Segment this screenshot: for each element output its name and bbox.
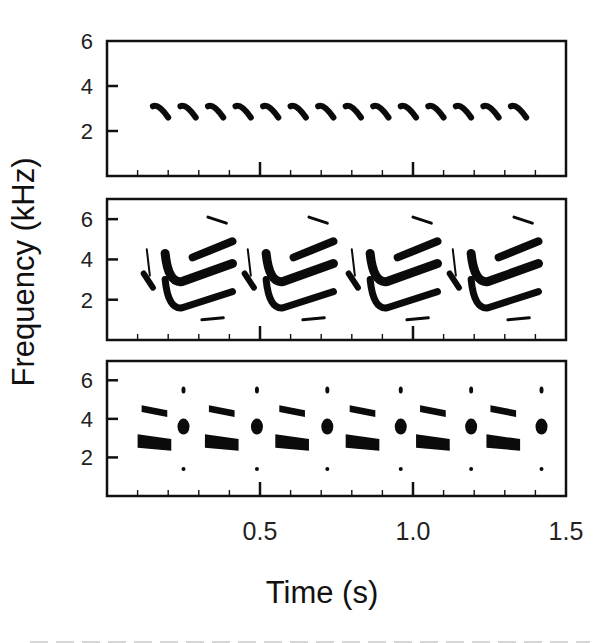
panel-top-syllable-train: 246	[81, 29, 566, 176]
syllable-mark	[456, 106, 471, 118]
syllable-mark	[373, 106, 388, 118]
phrase-intro-note	[245, 274, 254, 288]
syllable-mark	[263, 106, 278, 118]
syllable-mark	[208, 106, 223, 118]
click-blob	[251, 419, 263, 435]
y-tick-label: 2	[81, 445, 93, 470]
phrase-intro-sweep	[147, 249, 150, 275]
click-blob	[321, 419, 333, 435]
phrase-bottom-fragment	[508, 318, 529, 320]
x-tick-label: 1.5	[549, 517, 584, 545]
phrase-intro-sweep	[352, 249, 355, 275]
low-dot	[540, 467, 544, 471]
syllable-mark	[346, 106, 361, 118]
x-tick-label: 0.5	[243, 517, 278, 545]
click-blob	[465, 419, 477, 435]
lower-band	[416, 434, 450, 450]
upper-band	[279, 405, 305, 417]
panel-middle-harmonic-phrases: 246	[81, 199, 566, 340]
upper-band	[142, 405, 168, 417]
panel-frame	[107, 361, 566, 496]
syllable-mark	[401, 106, 416, 118]
high-dot	[255, 386, 259, 393]
syllable-mark	[511, 106, 526, 118]
lower-band	[275, 434, 309, 450]
phrase-intro-note	[349, 274, 358, 288]
phrase-top-fragment	[309, 217, 327, 223]
phrase-intro-note	[144, 274, 153, 288]
lower-band	[486, 434, 520, 450]
phrase-upper-harmonic	[294, 241, 334, 257]
phrase-upper-harmonic	[499, 241, 539, 257]
x-axis-title: Time (s)	[266, 575, 379, 610]
y-tick-label: 6	[81, 368, 93, 393]
panel-frame	[107, 41, 566, 176]
cropped-caption-text	[0, 636, 613, 643]
phrase-upper-harmonic	[398, 241, 438, 257]
phrase-bottom-fragment	[303, 318, 324, 320]
phrase-intro-note	[450, 274, 459, 288]
high-dot	[399, 386, 403, 393]
syllable-mark	[428, 106, 443, 118]
upper-band	[420, 405, 446, 417]
phrase-bottom-fragment	[407, 318, 428, 320]
y-tick-label: 6	[81, 29, 93, 54]
low-dot	[399, 467, 403, 471]
y-tick-label: 4	[81, 247, 93, 272]
click-blob	[178, 419, 190, 435]
low-dot	[325, 467, 329, 471]
panel-bottom-band-units: 246	[81, 361, 566, 496]
syllable-mark	[291, 106, 306, 118]
phrase-intro-sweep	[248, 249, 251, 275]
y-tick-label: 4	[81, 74, 93, 99]
lower-band	[205, 434, 239, 450]
syllable-mark	[153, 106, 168, 118]
x-tick-labels: 0.5 1.0 1.5	[243, 517, 584, 545]
low-dot	[255, 467, 259, 471]
syllable-mark	[180, 106, 195, 118]
phrase-bottom-fragment	[202, 318, 223, 320]
phrase-top-fragment	[208, 217, 226, 223]
high-dot	[469, 386, 473, 393]
click-blob	[395, 419, 407, 435]
x-tick-label: 1.0	[396, 517, 431, 545]
y-tick-label: 2	[81, 119, 93, 144]
panel-frame	[107, 199, 566, 340]
lower-band	[138, 434, 172, 450]
lower-band	[346, 434, 380, 450]
high-dot	[182, 386, 186, 393]
high-dot	[540, 386, 544, 393]
syllable-mark	[483, 106, 498, 118]
low-dot	[469, 467, 473, 471]
y-tick-label: 6	[81, 207, 93, 232]
high-dot	[325, 386, 329, 393]
y-axis-title: Frequency (kHz)	[6, 157, 41, 386]
phrase-intro-sweep	[453, 249, 456, 275]
y-tick-label: 2	[81, 288, 93, 313]
upper-band	[490, 405, 516, 417]
y-tick-label: 4	[81, 407, 93, 432]
click-blob	[536, 419, 548, 435]
phrase-top-fragment	[413, 217, 431, 223]
upper-band	[209, 405, 235, 417]
upper-band	[350, 405, 376, 417]
syllable-mark	[236, 106, 251, 118]
phrase-top-fragment	[514, 217, 532, 223]
spectrogram-figure: Frequency (kHz) 246 246 246 0.5 1.0 1.5 …	[0, 0, 613, 643]
phrase-upper-harmonic	[193, 241, 233, 257]
low-dot	[182, 467, 186, 471]
syllable-mark	[318, 106, 333, 118]
